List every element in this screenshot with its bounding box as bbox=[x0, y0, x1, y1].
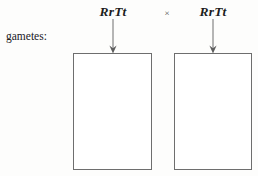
gamete-box-2[interactable] bbox=[174, 53, 252, 170]
gamete-box-1[interactable] bbox=[73, 53, 152, 170]
parent-2-genotype-label: RrTt bbox=[199, 5, 226, 19]
parent-1-genotype-label: RrTt bbox=[99, 5, 126, 19]
gametes-row-label: gametes: bbox=[6, 31, 47, 43]
down-arrow-icon bbox=[207, 19, 220, 54]
down-arrow-icon bbox=[107, 19, 120, 54]
cross-multiplication-symbol: × bbox=[164, 9, 169, 18]
dihybrid-cross-figure: RrTt × RrTt gametes: bbox=[0, 0, 258, 176]
